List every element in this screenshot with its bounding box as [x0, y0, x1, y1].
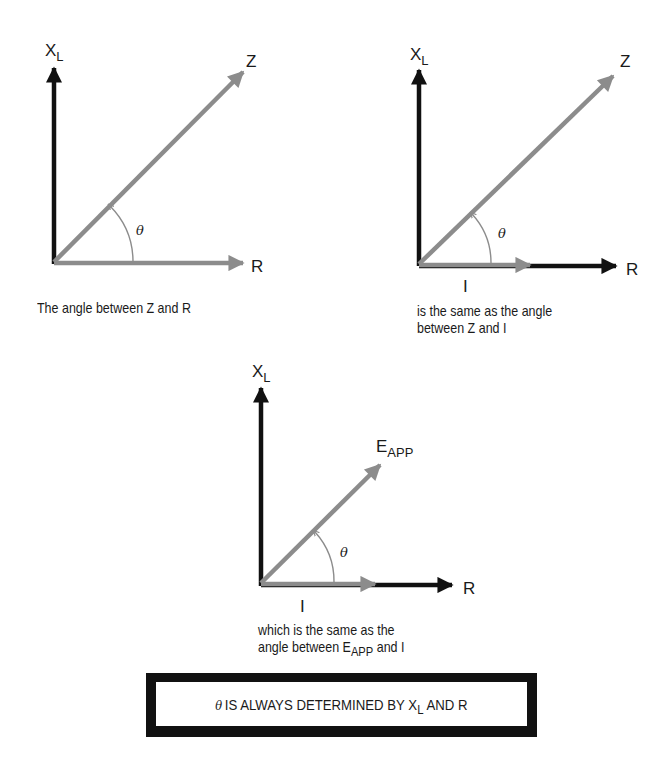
- z-label: Z: [620, 52, 630, 71]
- key-note-text: θIS ALWAYS DETERMINED BY XL AND R: [215, 696, 467, 713]
- xl-label: XL: [252, 362, 271, 385]
- theta-arc: [110, 206, 133, 261]
- xl-label: XL: [45, 41, 64, 64]
- i-label: I: [463, 277, 468, 296]
- panel-2-caption: is the same as the angle between Z and I: [417, 303, 552, 337]
- panel-3-diagram: θ XL EAPP R I: [252, 362, 475, 616]
- panel-2-diagram: θ XL Z R I: [410, 45, 638, 296]
- panel-3-caption-line-2: angle between EAPP and I: [258, 639, 404, 656]
- r-label: R: [626, 260, 638, 279]
- theta-symbol: θ: [215, 698, 222, 713]
- key-note-box: θIS ALWAYS DETERMINED BY XL AND R: [146, 673, 537, 737]
- e-app-vector: [261, 465, 380, 583]
- i-label: I: [300, 597, 305, 616]
- r-label: R: [463, 579, 475, 598]
- theta-label: θ: [498, 226, 506, 241]
- theta-label: θ: [340, 545, 348, 560]
- panel-3-caption-line-1: which is the same as the: [258, 622, 404, 639]
- z-vector: [419, 76, 613, 264]
- panel-1-diagram: θ XL Z R: [45, 41, 263, 276]
- theta-label: θ: [136, 223, 144, 238]
- r-label: R: [251, 257, 263, 276]
- panel-2-caption-line-2: between Z and I: [417, 320, 552, 337]
- e-app-label: EAPP: [376, 437, 413, 460]
- xl-label: XL: [410, 45, 429, 68]
- panel-1-caption: The angle between Z and R: [37, 300, 191, 317]
- theta-arc: [472, 214, 491, 263]
- theta-arc: [315, 532, 334, 582]
- z-label: Z: [246, 52, 256, 71]
- phasor-diagrams: θ XL Z R θ XL Z R I θ XL EAPP R I: [0, 0, 672, 775]
- z-vector: [54, 72, 243, 262]
- panel-3-caption: which is the same as the angle between E…: [258, 622, 404, 656]
- panel-2-caption-line-1: is the same as the angle: [417, 303, 552, 320]
